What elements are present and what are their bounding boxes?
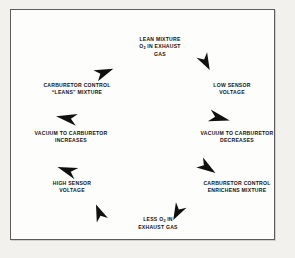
feedback-loop: LEAN MIXTURE O2 IN EXHAUST GAS LOW SENSO… (11, 10, 274, 239)
less-o2-subscript: 2 (163, 219, 165, 223)
less-o2-prefix: LESS O (143, 216, 163, 222)
node-control-leans-line2: “LEANS” MIXTURE (31, 89, 123, 96)
node-control-enrichens-line2: ENRICHENS MIXTURE (183, 187, 291, 194)
less-o2-suffix: IN (166, 216, 173, 222)
o2-suffix: IN EXHAUST (146, 43, 181, 49)
node-lean-mixture-line2: O2 IN EXHAUST (115, 43, 205, 51)
diagram-frame: LEAN MIXTURE O2 IN EXHAUST GAS LOW SENSO… (10, 9, 275, 240)
node-low-sensor-voltage-line1: LOW SENSOR (196, 82, 268, 89)
node-vacuum-decreases-line2: DECREASES (187, 137, 287, 144)
node-vacuum-decreases-line1: VACUUM TO CARBURETOR (187, 130, 287, 137)
node-high-sensor-voltage: HIGH SENSOR VOLTAGE (33, 180, 111, 194)
diagram-page: LEAN MIXTURE O2 IN EXHAUST GAS LOW SENSO… (0, 0, 295, 258)
node-low-sensor-voltage: LOW SENSOR VOLTAGE (196, 82, 268, 96)
node-vacuum-increases: VACUUM TO CARBURETOR INCREASES (19, 130, 123, 144)
node-control-enrichens: CARBURETOR CONTROL ENRICHENS MIXTURE (183, 180, 291, 194)
node-less-o2-exhaust: LESS O2 IN EXHAUST GAS (115, 216, 201, 231)
node-less-o2-line1: LESS O2 IN (115, 216, 201, 224)
node-high-sensor-voltage-line1: HIGH SENSOR (33, 180, 111, 187)
o2-subscript: 2 (144, 46, 146, 50)
o2-prefix: O (139, 43, 143, 49)
node-vacuum-increases-line2: INCREASES (19, 137, 123, 144)
node-lean-mixture-line3: GAS (115, 51, 205, 58)
node-lean-mixture: LEAN MIXTURE O2 IN EXHAUST GAS (115, 36, 205, 59)
node-lean-mixture-line1: LEAN MIXTURE (115, 36, 205, 43)
node-less-o2-line2: EXHAUST GAS (115, 224, 201, 231)
node-vacuum-increases-line1: VACUUM TO CARBURETOR (19, 130, 123, 137)
node-high-sensor-voltage-line2: VOLTAGE (33, 187, 111, 194)
node-vacuum-decreases: VACUUM TO CARBURETOR DECREASES (187, 130, 287, 144)
node-control-leans-line1: CARBURETOR CONTROL (31, 82, 123, 89)
node-control-leans: CARBURETOR CONTROL “LEANS” MIXTURE (31, 82, 123, 96)
node-control-enrichens-line1: CARBURETOR CONTROL (183, 180, 291, 187)
node-low-sensor-voltage-line2: VOLTAGE (196, 89, 268, 96)
